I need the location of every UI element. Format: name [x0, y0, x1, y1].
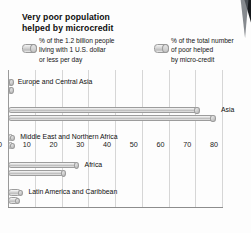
bar-a-1: [8, 107, 198, 114]
chart-title-line-1: Very poor population: [22, 12, 113, 23]
bar-cap: [9, 79, 14, 86]
chart-title-line-2: helped by microcredit: [22, 23, 113, 34]
chart-title: Very poor population helped by microcred…: [22, 12, 113, 34]
x-tick-50: 50: [130, 140, 138, 149]
x-tick-80: 80: [210, 140, 218, 149]
legend-label-a: % of the 1.2 billion people living with …: [39, 36, 115, 64]
x-tick-70: 70: [183, 140, 191, 149]
legend-swatch-icon: [22, 44, 37, 53]
category-label-1: Asia: [221, 106, 234, 113]
x-tick-60: 60: [157, 140, 165, 149]
x-axis-tick-labels: 01020304050607080: [0, 140, 214, 154]
bar-b-3: [8, 170, 64, 177]
bar-b-4: [8, 197, 19, 204]
x-tick-40: 40: [103, 140, 111, 149]
category-label-4: Latin America and Caribbean: [28, 188, 117, 195]
bar-b-0: [8, 87, 13, 94]
legend-swatch-icon: [154, 44, 169, 53]
x-tick-10: 10: [23, 140, 31, 149]
category-label-3: Africa: [85, 161, 103, 168]
legend-a-line-3: or less per day: [39, 56, 82, 63]
x-tick-0: 0: [0, 140, 2, 149]
x-tick-20: 20: [50, 140, 58, 149]
grid-line-50: [142, 70, 143, 208]
x-tick-30: 30: [76, 140, 84, 149]
legend-b-line-2: of poor helped: [171, 46, 213, 53]
x-axis-line: [8, 207, 223, 208]
bar-a-0: [8, 79, 13, 86]
chart-legend: % of the 1.2 billion people living with …: [22, 36, 250, 66]
grid-line-60: [169, 70, 170, 208]
grid-line-70: [195, 70, 196, 208]
bar-cap: [210, 115, 215, 122]
bar-cap: [194, 107, 199, 114]
category-label-0: Europe and Central Asia: [18, 78, 93, 85]
chart-page: Very poor population helped by microcred…: [0, 0, 251, 233]
bar-b-1: [8, 115, 214, 122]
grid-line-80: [222, 70, 223, 208]
legend-label-b: % of the total number of poor helped by …: [171, 36, 234, 64]
plot-area: Europe and Central AsiaAsiaMiddle East a…: [8, 70, 222, 208]
bar-cap: [74, 162, 79, 169]
legend-b-line-1: % of the total number: [171, 37, 234, 44]
bar-cap: [9, 87, 14, 94]
legend-b-line-3: by micro-credit: [171, 56, 214, 63]
page-curl-highlight: [236, 0, 249, 38]
legend-a-line-1: % of the 1.2 billion people: [39, 37, 115, 44]
bar-a-4: [8, 189, 21, 196]
legend-a-line-2: living with 1 U.S. dollar: [39, 46, 106, 53]
bar-cap: [61, 170, 66, 177]
bar-a-3: [8, 162, 78, 169]
